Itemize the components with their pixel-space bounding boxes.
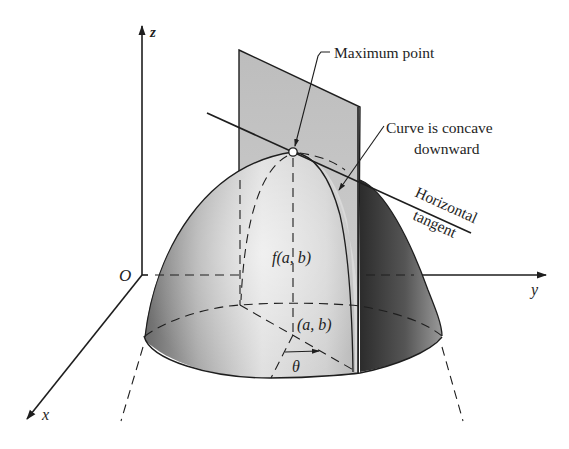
z-axis-label: z <box>149 24 156 40</box>
concave-label-line1: Curve is concave <box>386 119 493 136</box>
function-value-label: f(a, b) <box>272 249 311 267</box>
x-axis-label: x <box>41 406 49 423</box>
base-point-label: (a, b) <box>297 316 332 334</box>
maximum-point-label: Maximum point <box>334 44 435 61</box>
origin-label: O <box>119 266 131 285</box>
surface-dark-side <box>360 180 442 372</box>
y-axis-label: y <box>529 281 539 299</box>
concave-label-line2: downward <box>414 140 480 157</box>
x-axis <box>27 275 142 419</box>
theta-label: θ <box>292 358 300 375</box>
surface-diagram: z x y O Maximum point Curve is concave d… <box>0 0 569 449</box>
maximum-point-marker <box>289 148 297 156</box>
